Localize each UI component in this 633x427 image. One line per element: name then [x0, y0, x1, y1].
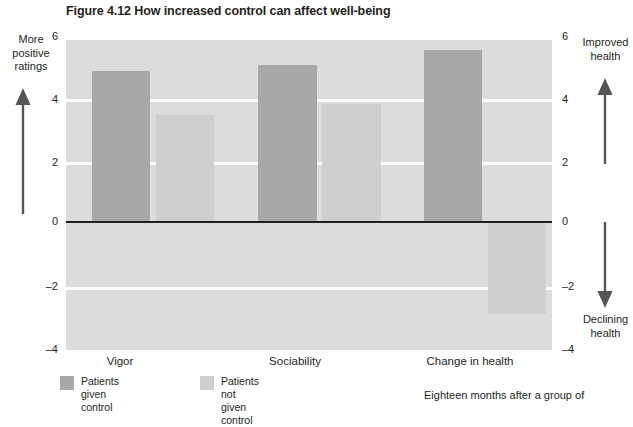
legend-swatch-dark: [60, 376, 74, 390]
bar-change-in-health-given-control: [424, 50, 482, 221]
y-tick-right-4: 4: [562, 94, 568, 105]
legend-label-given-control: Patients given control: [81, 375, 119, 414]
y-tick-right-6: 6: [562, 31, 568, 42]
gridline-neg2: [66, 287, 552, 290]
bar-vigor-given-control: [92, 71, 150, 221]
right-axis-annotation-bottom: Declining health: [578, 313, 633, 340]
bar-sociability-given-control: [258, 65, 317, 221]
y-tick-left-4: 4: [52, 94, 58, 105]
y-tick-right-0: 0: [562, 216, 568, 227]
y-tick-left-neg4: –4: [46, 344, 58, 355]
y-tick-left-2: 2: [52, 157, 58, 168]
y-tick-right-neg2: –2: [562, 281, 574, 292]
arrow-down-icon-right: [597, 222, 613, 308]
x-axis-label-change-in-health: Change in health: [400, 355, 540, 367]
gridline-6: [66, 37, 552, 40]
right-axis-annotation-top: Improved health: [578, 36, 633, 63]
legend-swatch-light: [200, 376, 214, 390]
y-tick-right-2: 2: [562, 157, 568, 168]
bar-sociability-not-given-control: [322, 104, 381, 221]
figure-caption: Eighteen months after a group of: [424, 389, 584, 402]
y-tick-left-0: 0: [52, 216, 58, 227]
x-axis-label-vigor: Vigor: [75, 355, 165, 367]
legend-label-not-given-control: Patients not given control: [221, 375, 259, 427]
left-axis-annotation: More positive ratings: [0, 33, 62, 74]
arrow-up-icon-right: [597, 78, 613, 164]
bar-vigor-not-given-control: [156, 115, 214, 221]
y-tick-left-neg2: –2: [46, 281, 58, 292]
figure-title: Figure 4.12 How increased control can af…: [66, 4, 390, 18]
y-tick-right-neg4: –4: [562, 344, 574, 355]
legend-item-given-control: Patients given control: [60, 375, 119, 414]
arrow-up-icon: [15, 88, 31, 214]
legend-item-not-given-control: Patients not given control: [200, 375, 259, 427]
zero-axis-line: [66, 221, 552, 223]
bar-change-in-health-not-given-control: [488, 223, 546, 314]
chart-plot-area: [66, 37, 552, 350]
x-axis-label-sociability: Sociability: [240, 355, 350, 367]
